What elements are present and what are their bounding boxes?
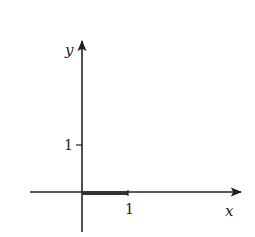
y-tick-label: 1: [64, 137, 73, 153]
y-axis-label: y: [64, 41, 74, 59]
coordinate-diagram: 1 1 x y: [0, 0, 255, 237]
x-axis-label: x: [225, 202, 234, 220]
highlighted-segment: [82, 191, 128, 195]
x-tick-label: 1: [125, 201, 134, 217]
